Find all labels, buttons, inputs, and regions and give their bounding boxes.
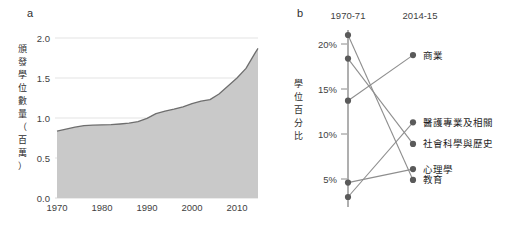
yaxis-char-3: 位 (18, 82, 27, 93)
yaxis-char-7: 百 (18, 135, 27, 145)
panel-b-yaxis-char-3: 分 (294, 118, 303, 128)
slope-line-psychology (348, 169, 413, 183)
panel-b-yaxis-char-4: 比 (294, 130, 303, 141)
panel-b-yaxis-char-1: 位 (294, 91, 303, 102)
slope-line-education (348, 35, 413, 180)
panel-a-xtick-labels: 1970 1980 1990 2000 2010 (46, 202, 247, 213)
panel-b-slope-chart: b 1970-71 2014-15 20% 15% 10% 5% (268, 0, 521, 231)
yaxis-char-8: 萬 (18, 147, 27, 158)
slope-line-social-science (348, 59, 413, 144)
panel-a-ytick-2: 1.0 (37, 113, 50, 124)
yaxis-char-1: 發 (18, 56, 27, 67)
panel-b-letter: b (297, 8, 303, 19)
panel-a-ytick-labels: 2.0 1.5 1.0 0.5 0.0 (37, 33, 50, 204)
panel-a-letter: a (27, 8, 33, 19)
yaxis-char-9: ） (18, 161, 27, 171)
panel-b-ytick-15: 15% (318, 84, 338, 95)
yaxis-char-5: 量 (18, 109, 27, 119)
yaxis-char-0: 頒 (18, 44, 27, 54)
series-label-health: 醫護專業及相關 (423, 117, 493, 128)
panel-b-ytick-20: 20% (318, 39, 338, 50)
slope-line-health (348, 122, 413, 197)
series-label-business: 商業 (423, 50, 443, 61)
marker-left-education (345, 32, 351, 38)
series-label-education: 教育 (423, 174, 443, 185)
panel-a-xtick-2: 1990 (136, 202, 157, 213)
panel-a-ytick-4: 2.0 (37, 33, 50, 44)
panel-b-yaxis-title: 學 位 百 分 比 (294, 78, 303, 141)
panel-a-ytick-1: 0.5 (37, 153, 50, 164)
panel-b-ytick-marks (341, 44, 347, 179)
series-label-social-science: 社會科學與歷史 (423, 138, 493, 149)
marker-right-social-science (410, 141, 416, 147)
panel-a-xtick-1: 1980 (91, 202, 112, 213)
panel-b-ytick-labels: 20% 15% 10% 5% (318, 39, 338, 185)
marker-right-psychology (410, 166, 416, 172)
marker-left-social-science (345, 56, 351, 62)
column-header-2014-15: 2014-15 (403, 10, 438, 21)
yaxis-char-2: 學 (18, 69, 27, 80)
column-header-1970-71: 1970-71 (331, 10, 366, 21)
panel-a-area-chart: a 2.0 1.5 1.0 0.5 0.0 頒 發 學 (0, 0, 268, 231)
yaxis-char-6: （ (18, 122, 27, 132)
panel-b-series-labels: 商業 醫護專業及相關 社會科學與歷史 心理學 教育 (423, 50, 493, 186)
panel-b-ytick-5: 5% (323, 174, 337, 185)
panel-b-ytick-10: 10% (318, 129, 338, 140)
marker-left-psychology (345, 180, 351, 186)
panel-b-right-markers (410, 52, 416, 183)
series-label-psychology: 心理學 (423, 164, 453, 175)
marker-left-business (345, 98, 351, 104)
marker-left-health (345, 194, 351, 200)
panel-a-ytick-3: 1.5 (37, 73, 50, 84)
panel-a-xtick-3: 2000 (181, 202, 202, 213)
panel-a-xtick-4: 2010 (226, 202, 247, 213)
panel-a-xtick-0: 1970 (46, 202, 67, 213)
panel-a-yaxis-title: 頒 發 學 位 數 量 （ 百 萬 ） (18, 44, 27, 171)
panel-b-yaxis-char-2: 百 (294, 105, 303, 115)
figure-container: a 2.0 1.5 1.0 0.5 0.0 頒 發 學 (0, 0, 521, 231)
panel-a-svg: 2.0 1.5 1.0 0.5 0.0 頒 發 學 位 數 量 （ 百 萬 ） (0, 0, 268, 231)
panel-b-yaxis-char-0: 學 (294, 78, 303, 89)
panel-b-slope-lines (348, 35, 413, 197)
panel-b-column-headers: 1970-71 2014-15 (331, 10, 438, 21)
slope-line-business (348, 55, 413, 101)
yaxis-char-4: 數 (18, 95, 27, 106)
marker-right-health (410, 119, 416, 125)
panel-b-svg: 1970-71 2014-15 20% 15% 10% 5% 學 位 (268, 0, 521, 231)
panel-a-area-fill (57, 48, 258, 198)
marker-right-business (410, 52, 416, 58)
marker-right-education (410, 177, 416, 183)
